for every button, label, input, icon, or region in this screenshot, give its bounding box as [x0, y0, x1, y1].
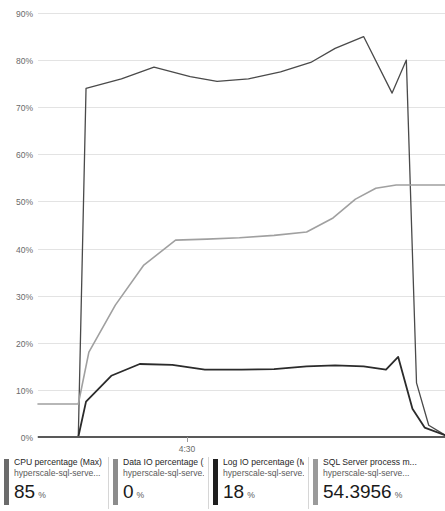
- y-axis-tick-label: 40%: [16, 245, 33, 255]
- y-axis-tick-label: 30%: [16, 292, 33, 302]
- y-axis-tick-label: 80%: [16, 56, 33, 66]
- legend-unit: %: [395, 490, 403, 500]
- legend-value-row: 18 %: [223, 482, 304, 502]
- legend-text-block: CPU percentage (Max) hyperscale-sql-serv…: [14, 457, 102, 502]
- x-axis-tick-label: 4:30: [179, 444, 196, 454]
- legend-unit: %: [137, 490, 145, 500]
- legend-item-log-io-percentage[interactable]: Log IO percentage (Max) hyperscale-sql-s…: [208, 457, 308, 509]
- legend-value: 0: [123, 482, 134, 502]
- y-axis-tick-labels: 0%10%20%30%40%50%60%70%80%90%: [16, 9, 33, 443]
- legend-resource-name: hyperscale-sql-serve...: [223, 468, 304, 479]
- y-axis-tick-label: 20%: [16, 339, 33, 349]
- y-axis-tick-label: 70%: [16, 103, 33, 113]
- legend-text-block: SQL Server process m... hyperscale-sql-s…: [323, 457, 417, 502]
- legend-value: 18: [223, 482, 244, 502]
- chart-legend: CPU percentage (Max) hyperscale-sql-serv…: [0, 455, 445, 511]
- legend-metric-name: Data IO percentage (...: [123, 457, 204, 468]
- legend-item-cpu-percentage[interactable]: CPU percentage (Max) hyperscale-sql-serv…: [4, 457, 108, 509]
- legend-metric-name: Log IO percentage (Max): [223, 457, 304, 468]
- legend-resource-name: hyperscale-sql-serve...: [323, 468, 417, 479]
- legend-metric-name: SQL Server process m...: [323, 457, 417, 468]
- legend-color-swatch: [213, 459, 218, 505]
- legend-item-data-io-percentage[interactable]: Data IO percentage (... hyperscale-sql-s…: [108, 457, 208, 509]
- legend-metric-name: CPU percentage (Max): [14, 457, 102, 468]
- legend-value: 54.3956: [323, 482, 392, 502]
- line-chart[interactable]: 0%10%20%30%40%50%60%70%80%90% 4:30: [0, 0, 445, 455]
- legend-color-swatch: [113, 459, 118, 505]
- legend-unit: %: [247, 490, 255, 500]
- series-line-2: [78, 357, 445, 437]
- metrics-chart-panel: 0%10%20%30%40%50%60%70%80%90% 4:30: [0, 0, 445, 455]
- chart-series-group: [38, 37, 445, 437]
- legend-text-block: Log IO percentage (Max) hyperscale-sql-s…: [223, 457, 304, 502]
- legend-text-block: Data IO percentage (... hyperscale-sql-s…: [123, 457, 204, 502]
- legend-unit: %: [38, 490, 46, 500]
- legend-resource-name: hyperscale-sql-serve...: [14, 468, 102, 479]
- legend-item-sql-server-process-memory[interactable]: SQL Server process m... hyperscale-sql-s…: [308, 457, 443, 509]
- legend-value-row: 54.3956 %: [323, 482, 417, 502]
- legend-value-row: 85 %: [14, 482, 102, 502]
- legend-resource-name: hyperscale-sql-serve...: [123, 468, 204, 479]
- legend-value-row: 0 %: [123, 482, 204, 502]
- y-axis-tick-label: 10%: [16, 386, 33, 396]
- x-axis-ticks: 4:30: [179, 437, 196, 454]
- y-axis-tick-label: 0%: [21, 433, 34, 443]
- legend-value: 85: [14, 482, 35, 502]
- y-axis-tick-label: 60%: [16, 150, 33, 160]
- series-line-3: [38, 185, 445, 404]
- y-axis-tick-label: 50%: [16, 197, 33, 207]
- legend-color-swatch: [4, 459, 9, 505]
- y-axis-tick-label: 90%: [16, 9, 33, 19]
- legend-color-swatch: [313, 459, 318, 505]
